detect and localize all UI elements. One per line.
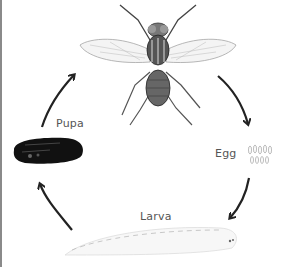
stage-label-pupa: Pupa [56, 117, 84, 130]
egg-cluster-illustration [249, 145, 272, 164]
arrow-adult-to-egg [218, 76, 248, 124]
adult-fly-illustration [80, 5, 236, 125]
arrow-larva-to-pupa [40, 184, 72, 230]
diagram-canvas [0, 0, 285, 267]
larva-illustration [65, 227, 236, 255]
life-cycle-diagram: Pupa Egg Larva [0, 0, 285, 267]
stage-label-egg: Egg [215, 147, 237, 160]
arrow-egg-to-larva [230, 178, 249, 218]
pupa-illustration [14, 138, 83, 164]
stage-label-larva: Larva [140, 210, 172, 223]
